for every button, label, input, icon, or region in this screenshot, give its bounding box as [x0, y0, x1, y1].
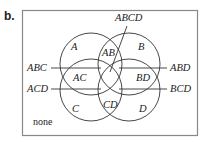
region-none-label: none	[33, 116, 53, 127]
region-a-label: A	[70, 41, 78, 52]
bcd-label: BCD	[170, 83, 191, 94]
region-c-label: C	[72, 103, 80, 114]
acd-label: ACD	[26, 83, 48, 94]
panel-label: b.	[4, 9, 15, 23]
abc-label: ABC	[26, 62, 48, 73]
abcd-label: ABCD	[114, 12, 143, 23]
region-bd-label: BD	[136, 72, 150, 83]
venn-diagram: b. ABCD ABC ACD ABD BCD A B AB AC BD CD …	[0, 0, 204, 142]
region-d-label: D	[138, 103, 147, 114]
abd-label: ABD	[169, 62, 191, 73]
region-cd-label: CD	[103, 99, 118, 110]
region-ab-label: AB	[101, 47, 115, 58]
region-b-label: B	[138, 41, 145, 52]
region-ac-label: AC	[72, 72, 87, 83]
